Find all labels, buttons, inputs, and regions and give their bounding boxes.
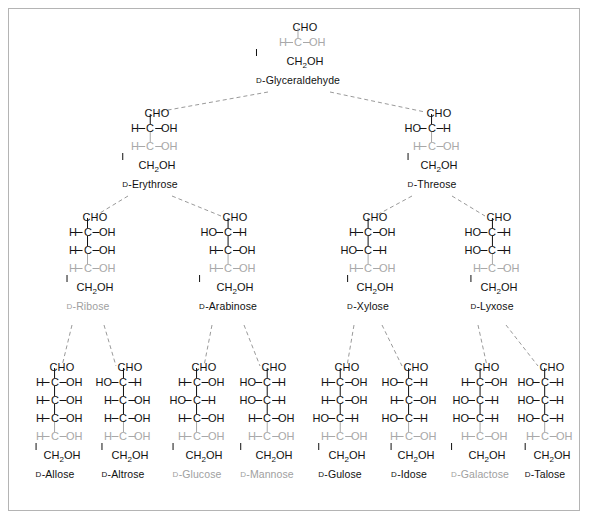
bond-left	[185, 400, 192, 401]
bond-left	[420, 146, 427, 147]
vertical-bond	[101, 443, 102, 450]
left-substituent: H	[104, 409, 112, 427]
right-substituent: OH	[161, 137, 178, 155]
bond-left	[76, 250, 83, 251]
bond-left	[480, 268, 487, 269]
bond-left	[533, 400, 540, 401]
right-substituent: OH	[351, 427, 368, 445]
left-substituent: H	[473, 259, 481, 277]
right-substituent: OH	[66, 373, 83, 391]
right-substituent: H	[278, 391, 286, 409]
ch2oh-group: CH2OH	[43, 449, 82, 466]
left-substituent: H	[69, 241, 77, 259]
left-substituent: H	[131, 119, 139, 137]
sugar-label: D-Ribose	[67, 300, 110, 312]
right-substituent: OH	[351, 373, 368, 391]
left-substituent: H	[321, 373, 329, 391]
bond-left	[185, 436, 192, 437]
sugar-label: D-Xylose	[347, 300, 389, 312]
sugar-label: D-Glyceraldehyde	[256, 74, 340, 86]
right-substituent: OH	[99, 241, 116, 259]
left-substituent: HO	[239, 373, 256, 391]
right-substituent: H	[503, 223, 511, 241]
right-substituent: H	[420, 409, 428, 427]
sugar-label: D-Altrose	[101, 468, 144, 480]
left-substituent: HO	[170, 391, 187, 409]
carbon-atom: C	[488, 259, 496, 277]
ch2oh-group: CH2OH	[263, 55, 347, 72]
ch2oh-group: CH2OH	[180, 449, 229, 466]
left-substituent: H	[131, 137, 139, 155]
carbon-atom: C	[294, 33, 302, 51]
sugar-erythrose: CHOHCOHHCOHCH2OHD-Erythrose	[122, 108, 178, 190]
vertical-bond	[391, 443, 392, 450]
cho-group: CHO	[206, 212, 264, 223]
ch2oh-group: CH2OH	[206, 281, 264, 298]
vertical-bond	[173, 443, 174, 450]
left-substituent: H	[104, 427, 112, 445]
carbon-atom: C	[51, 427, 59, 445]
left-substituent: HO	[517, 373, 534, 391]
left-substituent: H	[526, 427, 534, 445]
carbon-atom: C	[364, 259, 372, 277]
bond-left	[43, 400, 50, 401]
ch2oh-group: CH2OH	[129, 159, 185, 176]
right-substituent: OH	[420, 391, 437, 409]
left-substituent: H	[69, 259, 77, 277]
left-substituent: HO	[517, 391, 534, 409]
left-substituent: HO	[239, 391, 256, 409]
cho-group: CHO	[43, 362, 82, 373]
left-substituent: H	[209, 241, 217, 259]
left-substituent: H	[321, 391, 329, 409]
cho-group: CHO	[354, 212, 396, 223]
right-substituent: OH	[278, 427, 295, 445]
cho-group: CHO	[458, 362, 516, 373]
vertical-bond	[199, 275, 200, 282]
vertical-bond	[122, 153, 123, 160]
carbon-atom: C	[84, 259, 92, 277]
bond-left	[286, 42, 293, 43]
right-substituent: H	[491, 391, 499, 409]
left-substituent: H	[349, 223, 357, 241]
right-substituent: H	[443, 119, 451, 137]
left-substituent: HO	[382, 373, 399, 391]
vertical-bond	[408, 153, 409, 160]
sugar-idose: CHOHOCHHCOHHOCHHCOHCH2OHD-Idose	[391, 362, 428, 480]
right-substituent: OH	[99, 223, 116, 241]
vertical-bond	[67, 275, 68, 282]
cho-group: CHO	[247, 362, 301, 373]
vertical-bond	[525, 443, 526, 450]
carbon-atom: C	[476, 427, 484, 445]
sugar-xylose: CHOHCOHHOCHHCOHCH2OHD-Xylose	[347, 212, 389, 312]
carbon-atom: C	[405, 427, 413, 445]
right-substituent: H	[491, 409, 499, 427]
right-substituent: OH	[443, 137, 460, 155]
sugar-label: D-Idose	[391, 468, 428, 480]
cho-group: CHO	[263, 22, 347, 33]
right-substituent: OH	[66, 391, 83, 409]
bond-left	[76, 268, 83, 269]
right-substituent: OH	[379, 223, 396, 241]
ch2oh-group: CH2OH	[108, 449, 151, 466]
sugar-label: D-Lyxose	[470, 300, 513, 312]
bond-left	[533, 436, 540, 437]
left-substituent: H	[349, 259, 357, 277]
vertical-bond	[470, 275, 471, 282]
bond-left	[533, 382, 540, 383]
left-substituent: H	[461, 373, 469, 391]
left-substituent: HO	[312, 409, 329, 427]
sugar-label: D-Galactose	[451, 468, 509, 480]
vertical-bond	[256, 49, 257, 56]
left-substituent: HO	[96, 373, 113, 391]
bond-left	[420, 128, 427, 129]
left-substituent: HO	[452, 391, 469, 409]
cho-group: CHO	[74, 212, 117, 223]
cho-group: CHO	[398, 362, 435, 373]
left-substituent: H	[178, 427, 186, 445]
ch2oh-group: CH2OH	[458, 449, 516, 466]
left-substituent: H	[390, 391, 398, 409]
right-substituent: OH	[556, 427, 573, 445]
bond-left	[43, 418, 50, 419]
bond-left	[397, 382, 404, 383]
left-substituent: H	[36, 373, 44, 391]
